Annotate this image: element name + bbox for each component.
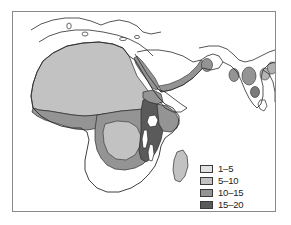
island-cyprus bbox=[135, 35, 140, 38]
region-north-africa-sahel bbox=[31, 42, 153, 116]
legend-label-10-15: 10–15 bbox=[218, 188, 243, 198]
legend-item: 10–15 bbox=[200, 187, 266, 199]
legend-item: 5–10 bbox=[200, 175, 266, 187]
region-south-asia-patch-5 bbox=[251, 87, 260, 98]
map-frame: 1–5 5–10 10–15 15–20 bbox=[12, 11, 276, 212]
legend-item: 1–5 bbox=[200, 163, 266, 175]
map-legend: 1–5 5–10 10–15 15–20 bbox=[195, 159, 269, 212]
island-crete bbox=[120, 37, 127, 40]
legend-swatch-1-5 bbox=[200, 165, 213, 174]
map-figure: 1–5 5–10 10–15 15–20 bbox=[0, 0, 291, 225]
island-sardinia bbox=[67, 23, 71, 29]
legend-label-1-5: 1–5 bbox=[218, 164, 233, 174]
europe-coast bbox=[31, 18, 161, 34]
region-south-asia-patch-2 bbox=[229, 69, 239, 82]
region-south-asia-patch-1 bbox=[202, 59, 213, 72]
region-madagascar bbox=[173, 150, 188, 182]
island-sicily bbox=[82, 32, 88, 36]
lake-victoria bbox=[147, 115, 158, 127]
legend-swatch-5-10 bbox=[200, 177, 213, 186]
legend-item: 15–20 bbox=[200, 199, 266, 211]
region-south-asia-patch-3 bbox=[242, 67, 256, 85]
legend-label-5-10: 5–10 bbox=[218, 176, 238, 186]
legend-label-15-20: 15–20 bbox=[218, 200, 243, 210]
legend-swatch-15-20 bbox=[200, 201, 213, 210]
legend-swatch-10-15 bbox=[200, 189, 213, 198]
region-southern-arabia bbox=[159, 60, 204, 92]
